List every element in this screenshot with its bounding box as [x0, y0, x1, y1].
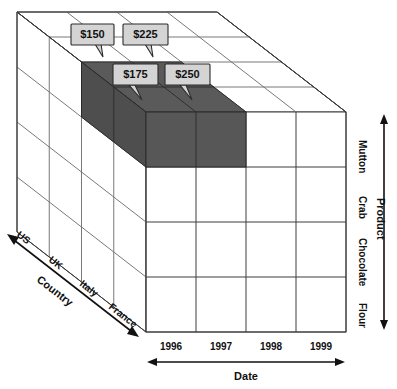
- date-tick-1998: 1998: [260, 341, 283, 352]
- product-tick-chocolate: Chocolate: [357, 238, 368, 287]
- cube-diagram-canvas: $150 $225 $175 $250 Mutton Crab Chocolat…: [0, 0, 397, 389]
- callout-250-value: $250: [175, 68, 199, 80]
- product-tick-flour: Flour: [357, 303, 368, 328]
- callout-225-value: $225: [133, 28, 157, 40]
- cube-wireframe: [17, 12, 346, 332]
- date-tick-1999: 1999: [310, 341, 333, 352]
- country-axis-label: Country: [35, 273, 76, 309]
- date-axis-arrow-head-right: [335, 358, 345, 366]
- callout-175-value: $175: [123, 68, 147, 80]
- date-axis-label: Date: [234, 370, 258, 382]
- callout-150-value: $150: [80, 28, 104, 40]
- product-axis-arrow-head-bottom: [380, 320, 388, 330]
- country-axis-arrow-head-bottom: [127, 326, 139, 337]
- date-tick-1997: 1997: [210, 341, 233, 352]
- date-axis-group: 1996 1997 1998 1999 Date: [147, 341, 345, 382]
- product-axis-label: Product: [375, 198, 387, 240]
- olap-cube-figure: $150 $225 $175 $250 Mutton Crab Chocolat…: [0, 0, 397, 389]
- date-axis-arrow-head-left: [147, 358, 157, 366]
- product-axis-arrow-head-top: [380, 114, 388, 124]
- product-tick-mutton: Mutton: [357, 140, 368, 173]
- product-axis-group: Mutton Crab Chocolate Flour Product: [357, 114, 388, 330]
- date-tick-1996: 1996: [160, 341, 183, 352]
- product-tick-crab: Crab: [357, 196, 368, 219]
